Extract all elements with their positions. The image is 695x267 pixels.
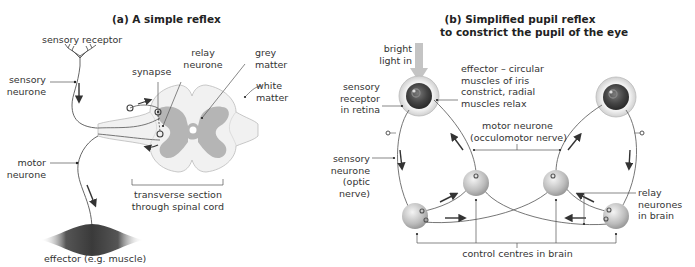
- label-synapse: synapse: [132, 66, 171, 78]
- label-relay-neurone: relay neurone: [178, 47, 228, 70]
- panel-a-title: (a) A simple reflex: [112, 13, 221, 26]
- label-effector: effector (e.g. muscle): [44, 253, 146, 265]
- label-relay-neurones-brain: relay neurones in brain: [638, 187, 682, 222]
- muscle-icon: [40, 224, 144, 256]
- relay-neurone-balls: [402, 170, 629, 229]
- label-motor-neurone: motor neurone: [2, 157, 46, 180]
- label-sensory-neurone: sensory neurone: [2, 74, 46, 97]
- label-sensory-receptor: sensory receptor: [42, 34, 122, 46]
- label-bright-light: bright light in: [370, 43, 412, 66]
- label-effector-iris: effector – circular muscles of iris cons…: [461, 63, 544, 109]
- label-transverse-section: transverse section through spinal cord: [128, 189, 228, 212]
- label-sensory-receptor-retina: sensory receptor in retina: [322, 81, 380, 116]
- left-eye-icon: [399, 76, 439, 116]
- label-white-matter: white matter: [256, 80, 288, 103]
- panel-b-title: (b) Simplified pupil reflex to constrict…: [440, 13, 600, 38]
- label-sensory-neurone-optic: sensory neurone (optic nerve): [322, 153, 370, 199]
- label-motor-neurone-occulomotor: motor neurone (occulomotor nerve): [470, 120, 565, 143]
- right-eye-icon: [596, 77, 636, 117]
- label-control-centres: control centres in brain: [460, 248, 575, 260]
- label-grey-matter: grey matter: [255, 47, 287, 70]
